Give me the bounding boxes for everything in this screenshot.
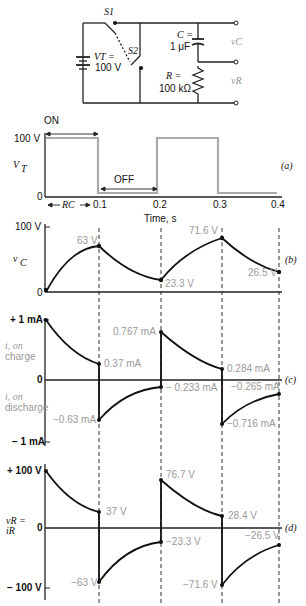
svg-text:i, on: i, on [5, 340, 23, 351]
svg-text:63 V: 63 V [77, 235, 98, 246]
svg-text:0.767 mA: 0.767 mA [113, 326, 156, 337]
terminal-mid [234, 60, 238, 64]
svg-text:23.3 V: 23.3 V [165, 278, 194, 289]
vr-output-label: vR [231, 75, 242, 86]
svg-text:−23.3 V: −23.3 V [166, 536, 201, 547]
svg-text:−71.6 V: −71.6 V [183, 579, 218, 590]
chart-a-vt: ON OFF 100 V 0 V T RC 0.1 0.2 0.3 0.4 Ti… [13, 115, 293, 224]
c-label: C = [177, 29, 193, 40]
svg-text:T: T [21, 163, 28, 174]
svg-text:(c): (c) [285, 374, 297, 386]
svg-text:i, on: i, on [5, 391, 23, 402]
svg-text:0.4: 0.4 [271, 199, 285, 210]
svg-text:100 V: 100 V [15, 221, 41, 232]
svg-text:26.5 V: 26.5 V [248, 267, 277, 278]
s1-contact [113, 21, 117, 25]
rc-circuit-figure: S1 S2 VT = 100 V C = 1 μF R = 100 kΩ vC … [0, 0, 306, 606]
svg-text:v: v [13, 253, 18, 264]
svg-text:(d): (d) [285, 522, 297, 534]
svg-text:0: 0 [37, 522, 43, 533]
vt-value: 100 V [95, 62, 121, 73]
chart-d-vr: + 100 V 0 − 100 V vR = iR (d) 37 V −63 V… [6, 464, 297, 600]
svg-text:37 V: 37 V [106, 506, 127, 517]
terminal-bottom [234, 101, 238, 105]
svg-text:iR: iR [6, 525, 15, 536]
svg-text:0: 0 [37, 287, 43, 298]
svg-text:ON: ON [44, 115, 59, 126]
svg-text:− 0.233 mA: − 0.233 mA [166, 382, 218, 393]
s2-contact [139, 66, 143, 70]
svg-text:charge: charge [5, 351, 36, 362]
svg-text:RC: RC [61, 199, 75, 210]
svg-text:0.284 mA: 0.284 mA [227, 363, 270, 374]
svg-text:(a): (a) [281, 160, 293, 172]
svg-text:(b): (b) [285, 254, 297, 266]
svg-text:C: C [20, 257, 27, 268]
svg-text:+ 100 V: + 100 V [7, 465, 42, 476]
chart-b-vc: 100 V 0 v C (b) 63 V 23.3 V 71.6 V 26.5 … [13, 221, 297, 298]
svg-text:0.3: 0.3 [213, 199, 227, 210]
svg-text:100 V: 100 V [14, 133, 40, 144]
svg-text:−0.265 mA: −0.265 mA [231, 381, 280, 392]
svg-text:0: 0 [37, 191, 43, 202]
s1-label: S1 [104, 6, 114, 17]
svg-text:discharge: discharge [5, 402, 49, 413]
svg-text:0.1: 0.1 [93, 199, 107, 210]
vt-label: VT = [94, 51, 115, 62]
svg-text:0.37 mA: 0.37 mA [104, 358, 142, 369]
svg-text:V: V [13, 159, 21, 170]
vc-output-label: vC [231, 36, 242, 47]
s2-label: S2 [128, 45, 138, 56]
c-value: 1 μF [170, 41, 190, 52]
svg-text:0: 0 [37, 374, 43, 385]
svg-text:76.7 V: 76.7 V [166, 469, 195, 480]
svg-text:Time, s: Time, s [144, 213, 176, 224]
svg-text:− 1 mA: − 1 mA [12, 436, 45, 447]
svg-text:0.2: 0.2 [153, 199, 167, 210]
svg-text:71.6 V: 71.6 V [189, 225, 218, 236]
svg-text:−0.63 mA: −0.63 mA [53, 414, 96, 425]
chart-c-current: + 1 mA 0 − 1 mA i, on charge i, on disch… [5, 314, 297, 447]
svg-text:− 100 V: − 100 V [7, 582, 42, 593]
svg-text:−26.5 V: −26.5 V [245, 530, 280, 541]
svg-text:−0.716 mA: −0.716 mA [227, 418, 276, 429]
r-label: R = [165, 70, 181, 81]
resistor-icon [193, 66, 203, 103]
terminal-top [234, 21, 238, 25]
svg-text:28.4 V: 28.4 V [228, 510, 257, 521]
svg-text:−63 V: −63 V [71, 577, 98, 588]
svg-text:OFF: OFF [114, 174, 134, 185]
r-value: 100 kΩ [159, 83, 191, 94]
svg-text:+ 1 mA: + 1 mA [10, 314, 43, 325]
